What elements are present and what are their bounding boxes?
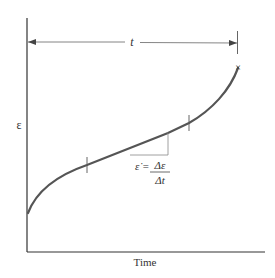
creep-curve bbox=[28, 68, 238, 213]
duration-label: t bbox=[130, 35, 134, 49]
rate-formula-denominator: Δt bbox=[154, 174, 165, 186]
rate-formula-numerator: Δε bbox=[154, 159, 166, 171]
rate-formula-lhs: ε̇ = bbox=[135, 160, 150, 172]
creep-curve-diagram: t × ε̇ = Δε Δt ε Time bbox=[0, 0, 275, 278]
duration-arrow-right bbox=[140, 43, 237, 44]
y-axis-label: ε bbox=[16, 118, 21, 132]
rupture-marker: × bbox=[235, 62, 241, 73]
x-axis-label: Time bbox=[134, 256, 157, 268]
